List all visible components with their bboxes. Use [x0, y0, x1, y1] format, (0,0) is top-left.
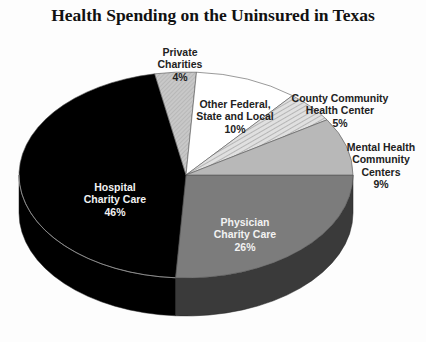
label-mental-health: Mental Health Community Centers9%: [336, 128, 426, 191]
label-private: Private Charities4%: [145, 33, 215, 83]
label-county: County Community Health Center5%: [285, 79, 395, 129]
label-hospital: Hospital Charity Care46%: [60, 168, 170, 218]
label-physician: Physician Charity Care26%: [195, 203, 295, 253]
label-other: Other Federal, State and Local10%: [190, 85, 280, 135]
